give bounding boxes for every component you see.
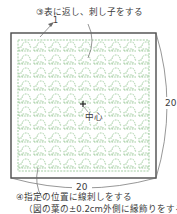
step3-label: ③表に返し、刺し子をする [36,8,143,17]
dimension-bottom-label: 20 [76,183,87,192]
leader-1-label: 1 [53,17,58,25]
dimension-right-label: 20 [165,99,176,108]
diagram-canvas [0,0,177,214]
center-label: 中心 [84,113,104,122]
step4-label: ④指定の位置に線刺しをする [16,193,132,202]
step4-note: （図の葉の±0.2cm外側に縁飾りをする [24,205,177,214]
